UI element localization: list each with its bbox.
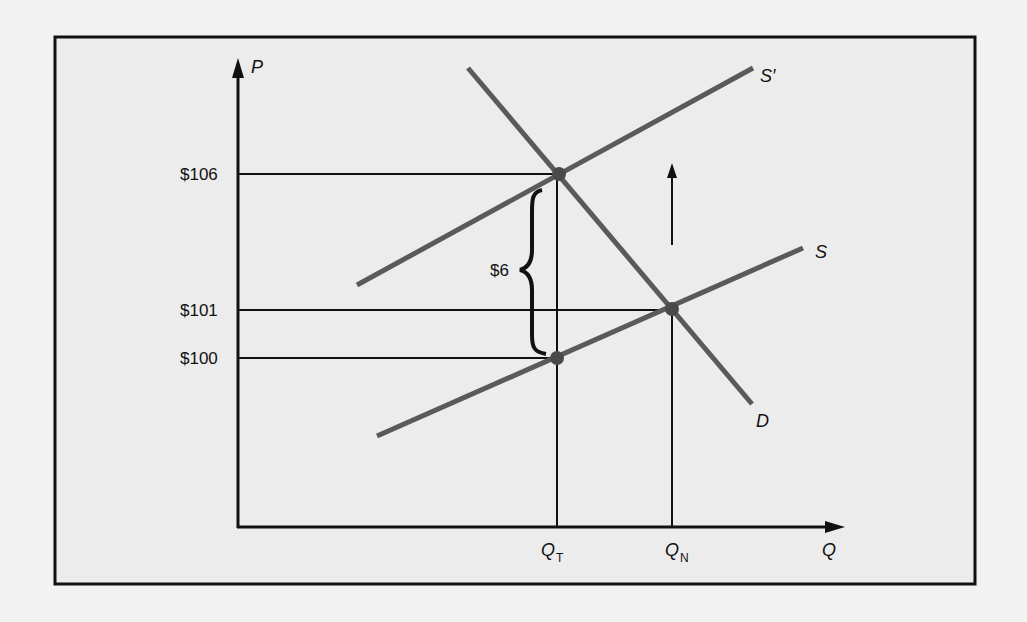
price-label-101: $101 — [180, 301, 218, 320]
curve-label-s: S — [815, 242, 827, 262]
seller-price-point — [550, 351, 564, 365]
curve-label-d: D — [756, 411, 769, 431]
svg-text:Q: Q — [541, 540, 555, 560]
svg-text:Q: Q — [665, 540, 679, 560]
tax-incidence-diagram: P Q $106 $101 $100 $6 S′ S D Q T Q N — [0, 0, 1027, 622]
svg-text:N: N — [680, 551, 689, 565]
price-label-100: $100 — [180, 349, 218, 368]
curve-label-s-prime: S′ — [760, 66, 776, 86]
x-axis-label: Q — [822, 540, 836, 560]
equilibrium-point-no-tax — [665, 302, 679, 316]
tax-wedge-label: $6 — [490, 261, 509, 280]
equilibrium-point-taxed — [552, 167, 566, 181]
price-label-106: $106 — [180, 165, 218, 184]
y-axis-label: P — [251, 57, 263, 77]
svg-text:T: T — [556, 551, 564, 565]
